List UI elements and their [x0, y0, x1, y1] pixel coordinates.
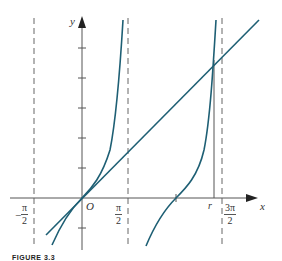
tick-3pi-half: 3π 2 — [224, 203, 236, 226]
figure-caption: FIGURE 3.3 — [12, 254, 55, 261]
x-axis-label: x — [260, 201, 265, 212]
x-axis-arrow — [246, 194, 258, 202]
tick-pi-half: π 2 — [115, 203, 122, 226]
tan-curve — [52, 20, 216, 246]
asymptotes — [34, 18, 222, 246]
y-axis-arrow — [78, 16, 86, 28]
origin-label: O — [86, 201, 94, 212]
y-axis-label: y — [70, 16, 75, 27]
tick-neg-pi-half: π 2 — [21, 203, 28, 226]
root-label: r — [208, 201, 212, 211]
